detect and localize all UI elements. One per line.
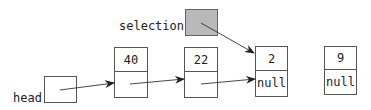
node-value: 40 <box>124 53 138 67</box>
node-22: 22 <box>185 48 218 98</box>
node-value: 22 <box>194 53 208 67</box>
node-value: 9 <box>337 51 344 65</box>
node-value: 2 <box>268 52 275 66</box>
selection-label: selection <box>119 19 184 33</box>
node-next: null <box>257 76 286 90</box>
head-label: head <box>13 91 42 105</box>
head-pointer: head <box>13 77 77 106</box>
node-9: 9 null <box>325 47 357 95</box>
selection-box <box>186 10 218 36</box>
node-40: 40 <box>115 48 148 98</box>
linked-list-diagram: head selection 40 22 2 null 9 null <box>0 0 371 110</box>
node-next: null <box>326 75 355 89</box>
selection-pointer: selection <box>119 10 218 36</box>
node-2: 2 null <box>256 47 288 97</box>
